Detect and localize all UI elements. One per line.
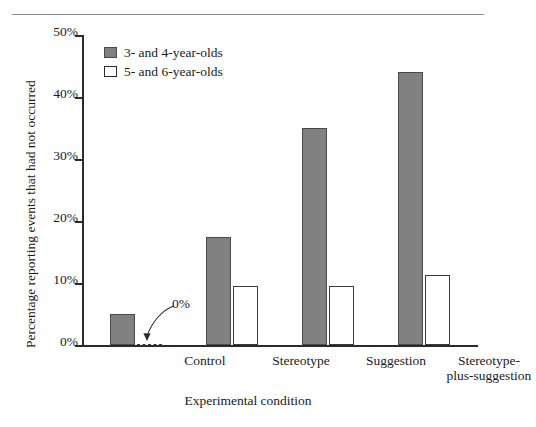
bar-group-suggestion — [302, 35, 382, 345]
y-tick-label-30: 30% — [53, 149, 78, 163]
plot-area: 50% 40% 30% 20% 10% 0% Control — [82, 35, 478, 345]
bar-group-stereotype-plus-suggestion — [398, 35, 478, 345]
top-horizontal-rule — [12, 14, 484, 15]
y-axis-title: Percentage reporting events that had not… — [23, 8, 43, 348]
bar-stereotype-plus-suggestion-5and6[interactable] — [425, 275, 450, 345]
legend-swatch-hollow-icon — [104, 66, 117, 77]
legend-label-5and6: 5- and 6-year-olds — [124, 63, 223, 80]
legend: 3- and 4-year-olds 5- and 6-year-olds — [104, 44, 223, 82]
y-tick-label-10: 10% — [53, 273, 78, 287]
bar-stereotype-3and4[interactable] — [206, 237, 231, 346]
x-tick-label-stereotype: Stereotype — [246, 353, 356, 368]
legend-item-5and6: 5- and 6-year-olds — [104, 63, 223, 80]
bar-suggestion-5and6[interactable] — [329, 286, 354, 345]
legend-label-3and4: 3- and 4-year-olds — [124, 44, 223, 61]
x-axis-title: Experimental condition — [0, 393, 496, 409]
x-tick-label-stereotype-plus-suggestion: Stereotype- plus-suggestion — [425, 353, 536, 383]
bar-control-3and4[interactable] — [110, 314, 135, 345]
y-tick-label-50: 50% — [53, 25, 78, 39]
y-axis-line — [82, 35, 84, 345]
zero-annotation-label: 0% — [172, 297, 190, 311]
legend-swatch-filled-icon — [104, 47, 117, 58]
y-tick-label-40: 40% — [53, 87, 78, 101]
y-tick-label-20: 20% — [53, 211, 78, 225]
bar-stereotype-plus-suggestion-3and4[interactable] — [398, 72, 423, 345]
x-tick-label-control: Control — [150, 353, 260, 368]
y-tick-label-0: 0% — [60, 335, 78, 349]
bar-suggestion-3and4[interactable] — [302, 128, 327, 345]
bar-stereotype-5and6[interactable] — [233, 286, 258, 345]
legend-item-3and4: 3- and 4-year-olds — [104, 44, 223, 61]
